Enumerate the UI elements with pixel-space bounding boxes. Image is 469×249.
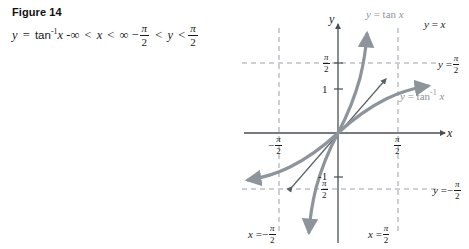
pi-over-2-fraction: π2 [383,224,390,245]
annotation-x: x [439,90,444,102]
graph-svg [240,0,469,249]
pi-over-2-fraction: π2 [453,54,460,75]
equation-domain-upper: ∞ [120,28,129,42]
fraction-denominator-two: 2 [188,36,198,48]
figure-equation: y = tan-1x -∞ < x < ∞ −π2 < y <π2 [12,24,242,49]
annotation-x: x [441,18,446,30]
fraction-numerator-pi: π [275,135,282,145]
pi-over-2-fraction: π2 [321,179,328,200]
equation-var-y: y [167,28,173,42]
y-axis-label: y [329,12,334,27]
equation-inverse-exponent: -1 [51,27,58,36]
fraction-denominator-two: 2 [323,64,330,74]
figure-root: Figure 14 y = tan-1x -∞ < x < ∞ −π2 < y … [0,0,469,249]
label-x: x [248,228,253,240]
label-x-equals-pi-over-2: x =π2 [368,225,390,246]
annotation-y: y [424,18,429,30]
equation-var-x: x [97,28,103,42]
annotation-tan: tan [417,90,430,102]
minus-sign: − [268,139,274,151]
tick-label-y-pi-over-2: π2 [322,54,331,75]
tick-label-x-neg-pi-over-2: −π2 [268,136,283,157]
equation-x-arg: x [58,28,64,42]
equation-fraction-upper: π2 [188,23,198,48]
fraction-numerator-pi: π [269,224,276,234]
annotation-y-equals-arctan-x: y = tan-1 x [400,88,444,102]
pi-over-2-fraction: π2 [394,135,401,156]
annotation-inverse-exponent: -1 [430,88,437,97]
figure-title: Figure 14 [12,6,242,18]
fraction-denominator-two: 2 [275,146,282,156]
equation-equals: = [23,28,30,42]
label-equals: = [376,228,382,240]
pi-over-2-fraction: π2 [454,180,461,201]
label-x-equals-neg-pi-over-2: x =−π2 [248,225,277,246]
fraction-denominator-two: 2 [140,36,150,48]
label-y-equals-neg-pi-over-2: y =−π2 [433,181,462,202]
equation-lt-4: < [178,28,185,42]
fraction-denominator-two: 2 [454,191,461,201]
equation-y: y [12,28,18,42]
equation-lt-3: < [155,28,162,42]
label-y-equals-pi-over-2: y =π2 [438,55,460,76]
fraction-denominator-two: 2 [383,235,390,245]
annotation-tan: tan [383,8,396,20]
fraction-numerator-pi: π [394,135,401,145]
fraction-numerator-pi: π [453,54,460,64]
annotation-equals: = [408,90,414,102]
figure-caption-block: Figure 14 y = tan-1x -∞ < x < ∞ −π2 < y … [12,6,242,49]
tick-label-x-pi-over-2: π2 [393,136,402,157]
fraction-numerator-pi: π [323,53,330,63]
x-axis-label: x [447,126,452,141]
fraction-numerator-pi: π [140,23,150,35]
equation-fraction-lower: π2 [140,23,150,48]
label-y: y [438,58,443,70]
equation-domain-lower: -∞ [66,28,79,42]
minus-sign: − [262,228,268,240]
annotation-y: y [400,90,405,102]
pi-over-2-fraction: π2 [269,224,276,245]
fraction-denominator-two: 2 [321,190,328,200]
pi-over-2-fraction: π2 [323,53,330,74]
fraction-numerator-pi: π [321,179,328,189]
tick-label-y-neg-pi-over-2: π2 [320,180,329,201]
graph-panel: y x 1 -1 π2 π2 −π2 π2 y = tan x y = x y … [240,0,469,249]
equation-lt-1: < [84,28,91,42]
equation-minus: − [132,28,139,42]
label-equals: = [446,58,452,70]
equation-tan: tan [35,29,51,41]
label-x: x [368,228,373,240]
fraction-numerator-pi: π [188,23,198,35]
annotation-x: x [399,8,404,20]
fraction-numerator-pi: π [383,224,390,234]
annotation-y-equals-x: y = x [424,18,446,30]
annotation-y: y [366,8,371,20]
annotation-y-equals-tan-x: y = tan x [366,8,404,20]
fraction-numerator-pi: π [454,180,461,190]
tick-label-y-1: 1 [322,83,328,95]
fraction-denominator-two: 2 [453,65,460,75]
pi-over-2-fraction: π2 [275,135,282,156]
fraction-denominator-two: 2 [269,235,276,245]
minus-sign: − [447,184,453,196]
equation-lt-2: < [107,28,114,42]
axes [244,24,445,243]
label-y: y [433,184,438,196]
annotation-equals: = [432,18,438,30]
fraction-denominator-two: 2 [394,146,401,156]
annotation-equals: = [374,8,380,20]
